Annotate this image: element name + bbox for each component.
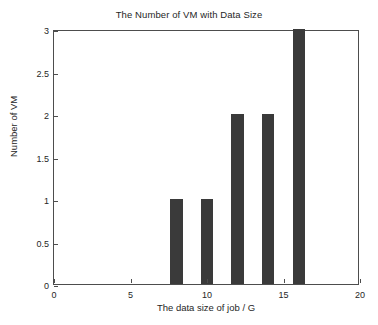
x-tick-label: 20: [355, 290, 365, 300]
y-tick-mark: [54, 31, 58, 32]
x-tick-mark: [284, 279, 285, 283]
chart-figure: The Number of VM with Data Size Number o…: [0, 0, 378, 325]
y-tick-mark: [54, 286, 58, 287]
y-axis-label: Number of VM: [8, 96, 19, 157]
bar: [231, 114, 243, 284]
y-tick-label: 2: [44, 111, 49, 121]
y-tick-label: 3: [44, 26, 49, 36]
y-tick-mark: [54, 159, 58, 160]
y-tick-label: 1.5: [36, 154, 49, 164]
x-tick-label: 10: [202, 290, 212, 300]
x-axis-label: The data size of job / G: [53, 302, 359, 313]
y-tick-mark: [54, 201, 58, 202]
bar-series: [54, 31, 358, 284]
x-tick-label: 5: [128, 290, 133, 300]
bar: [170, 199, 182, 284]
bar: [262, 114, 274, 284]
chart-title: The Number of VM with Data Size: [0, 9, 378, 20]
x-tick-mark: [360, 279, 361, 283]
y-tick-label: 2.5: [36, 69, 49, 79]
y-tick-label: 1: [44, 196, 49, 206]
y-tick-mark: [54, 74, 58, 75]
y-tick-mark: [54, 244, 58, 245]
y-tick-mark: [54, 116, 58, 117]
plot-area: 00.511.522.53 05101520: [53, 30, 359, 285]
x-tick-mark: [54, 279, 55, 283]
x-tick-label: 15: [278, 290, 288, 300]
bar: [293, 29, 305, 284]
x-tick-mark: [207, 279, 208, 283]
x-tick-mark: [131, 279, 132, 283]
y-tick-label: 0: [44, 281, 49, 291]
y-tick-label: 0.5: [36, 239, 49, 249]
x-tick-label: 0: [51, 290, 56, 300]
bar: [201, 199, 213, 284]
